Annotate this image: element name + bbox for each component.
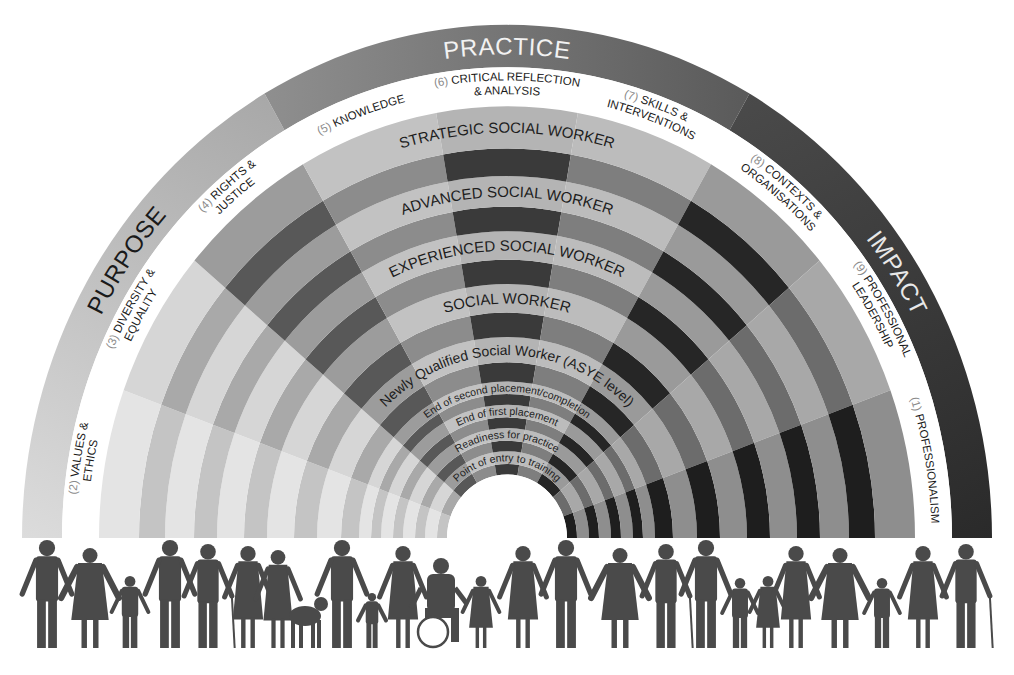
- person-silhouette-woman: [380, 546, 427, 648]
- person-silhouette-woman: [900, 546, 947, 648]
- person-silhouette-woman: [500, 546, 547, 648]
- people-silhouettes: [0, 528, 1014, 658]
- person-silhouette-wheelchair-user: [411, 558, 467, 647]
- person-silhouette-man: [317, 540, 367, 648]
- person-silhouette-older-woman: [591, 548, 649, 648]
- person-silhouette-guide-dog: [289, 597, 328, 648]
- person-silhouette-girl: [750, 576, 787, 648]
- person-silhouette-boy: [864, 578, 900, 648]
- ring-dark-segment: [491, 441, 523, 453]
- person-silhouette-man: [541, 540, 591, 648]
- ring-dark-segment: [487, 417, 527, 429]
- ring-dark-segment: [461, 260, 552, 288]
- person-silhouette-girl: [463, 576, 500, 648]
- ring-dark-segment: [478, 362, 536, 383]
- svg-text:& ANALYSIS: & ANALYSIS: [473, 84, 540, 97]
- ring-dark-segment: [495, 464, 519, 476]
- person-silhouette-child: [112, 576, 149, 648]
- person-silhouette-toddler: [358, 593, 386, 648]
- person-silhouette-older-man-cane: [942, 544, 993, 648]
- band-label-practice: PRACTICE: [442, 32, 573, 63]
- person-silhouette-older-woman: [61, 548, 119, 648]
- ring-dark-segment: [470, 313, 544, 340]
